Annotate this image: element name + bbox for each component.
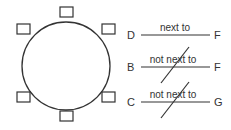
clue-1-relation: next to — [160, 22, 190, 33]
round-table — [22, 22, 110, 110]
clue-3-strike — [161, 82, 189, 118]
clue-row-3: C not next to G — [127, 82, 223, 118]
clue-3-relation: not next to — [150, 89, 197, 100]
seat-upper-right — [102, 24, 115, 34]
clue-2-left: B — [127, 61, 134, 73]
clue-1-right: F — [214, 29, 221, 41]
seat-upper-left — [17, 24, 30, 34]
clue-2-right: F — [214, 61, 221, 73]
seat-bottom — [60, 111, 73, 121]
seat-lower-right — [102, 92, 115, 102]
clue-row-1: D next to F — [127, 22, 221, 41]
seat-group — [17, 7, 115, 121]
seating-diagram: D next to F B not next to F C not next t… — [0, 0, 231, 130]
clue-2-relation: not next to — [150, 54, 197, 65]
clue-1-left: D — [127, 29, 135, 41]
clue-3-right: G — [214, 96, 223, 108]
clue-row-2: B not next to F — [127, 47, 221, 83]
seat-lower-left — [17, 92, 30, 102]
clue-2-strike — [161, 47, 189, 83]
clue-3-left: C — [127, 96, 135, 108]
seat-top — [60, 7, 73, 17]
